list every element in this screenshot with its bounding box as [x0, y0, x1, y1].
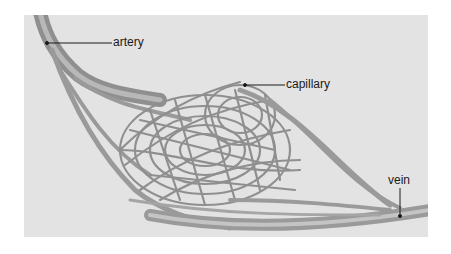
capillary-leader-dot: [244, 84, 247, 87]
artery-label: artery: [113, 36, 144, 48]
vein-label: vein: [388, 174, 410, 186]
capillary-bed-illustration: [0, 0, 451, 254]
capillary-label: capillary: [286, 78, 330, 90]
artery-leader-dot: [46, 42, 49, 45]
vein-leader-dot: [399, 215, 402, 218]
